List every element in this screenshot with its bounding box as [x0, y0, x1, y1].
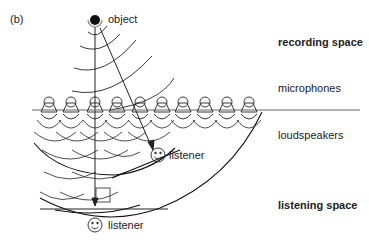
transducer-array — [41, 97, 257, 119]
panel-label: (b) — [10, 14, 23, 25]
listener-near-icon — [151, 148, 165, 162]
right-angle-marker — [96, 188, 110, 202]
object-label: object — [108, 14, 137, 25]
object-source-icon — [88, 15, 102, 27]
object-wavefronts — [72, 26, 174, 110]
loudspeakers-label: loudspeakers — [278, 130, 343, 141]
listener-near-label: listener — [169, 150, 204, 161]
listener-far-icon — [88, 218, 102, 232]
recording-space-label: recording space — [278, 37, 363, 48]
loudspeaker-wavelets — [34, 120, 261, 200]
listening-space-label: listening space — [278, 200, 357, 211]
listener-far-label: listener — [108, 220, 143, 231]
microphones-label: microphones — [278, 83, 341, 94]
